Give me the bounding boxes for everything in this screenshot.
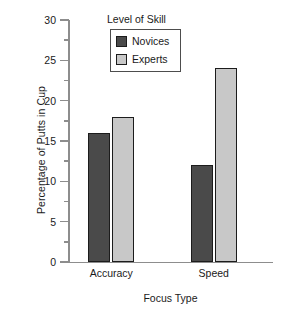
y-tick-label: 30 [20,14,56,26]
legend-label: Experts [132,53,168,65]
bar-accuracy-novices [88,133,110,262]
x-axis-title: Focus Type [68,292,273,304]
y-tick-label: 25 [20,54,56,66]
bar-chart: Percentage of Putts in Cup 051015202530 … [0,0,292,322]
y-tick-label: 20 [20,95,56,107]
x-category-label: Speed [164,267,264,279]
legend-entry-experts: Experts [116,53,168,65]
y-tick-label: 15 [20,135,56,147]
y-tick-label: 10 [20,175,56,187]
x-category-label: Accuracy [61,267,161,279]
legend-title: Level of Skill [107,13,166,25]
y-tick-label: 0 [20,256,56,268]
legend-swatch-icon [116,54,127,65]
bar-speed-experts [215,68,237,262]
legend-box: NovicesExperts [110,29,181,72]
legend-swatch-icon [116,36,127,47]
y-tick-label: 5 [20,216,56,228]
bar-speed-novices [191,165,213,262]
legend-label: Novices [132,35,169,47]
bar-accuracy-experts [112,117,134,262]
legend-entry-novices: Novices [116,35,169,47]
